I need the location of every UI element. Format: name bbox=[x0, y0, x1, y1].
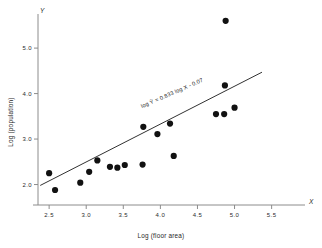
data-point bbox=[154, 131, 160, 137]
x-tick-label: 3.0 bbox=[81, 212, 91, 218]
data-point bbox=[167, 120, 173, 126]
regression-line-segment bbox=[40, 72, 262, 185]
data-point bbox=[52, 187, 58, 193]
data-point bbox=[122, 162, 128, 168]
data-point bbox=[107, 164, 113, 170]
y-tick-label: 4.0 bbox=[22, 91, 32, 97]
y-axis-letter: Y bbox=[40, 7, 44, 14]
data-point bbox=[223, 18, 229, 24]
data-point bbox=[140, 124, 146, 130]
y-axis-title: Log (population) bbox=[7, 97, 14, 146]
data-point bbox=[231, 105, 237, 111]
x-axis-ticks bbox=[49, 205, 272, 209]
data-point bbox=[46, 170, 52, 176]
x-tick-label: 3.5 bbox=[119, 212, 129, 218]
regression-line bbox=[40, 72, 262, 185]
x-tick-label: 5.0 bbox=[230, 212, 240, 218]
data-point bbox=[222, 82, 228, 88]
y-tick-label: 3.0 bbox=[22, 136, 32, 142]
x-tick-label: 4.5 bbox=[193, 212, 203, 218]
y-axis-ticks bbox=[34, 48, 38, 184]
plot-area bbox=[0, 0, 322, 248]
data-point bbox=[139, 161, 145, 167]
data-point bbox=[94, 157, 100, 163]
data-point bbox=[171, 153, 177, 159]
data-point bbox=[86, 169, 92, 175]
data-point bbox=[221, 111, 227, 117]
x-axis-title: Log (floor area) bbox=[138, 232, 185, 239]
data-point bbox=[114, 165, 120, 171]
data-point bbox=[77, 180, 83, 186]
scatter-chart: 2.53.03.54.04.55.05.5 2.03.04.05.0 Log (… bbox=[0, 0, 322, 248]
y-tick-label: 5.0 bbox=[22, 45, 32, 51]
x-tick-label: 2.5 bbox=[44, 212, 54, 218]
data-point bbox=[213, 111, 219, 117]
axes bbox=[33, 14, 305, 205]
x-axis-letter: X bbox=[309, 198, 313, 205]
y-tick-label: 2.0 bbox=[22, 182, 32, 188]
x-tick-label: 4.0 bbox=[156, 212, 166, 218]
x-tick-label: 5.5 bbox=[267, 212, 277, 218]
